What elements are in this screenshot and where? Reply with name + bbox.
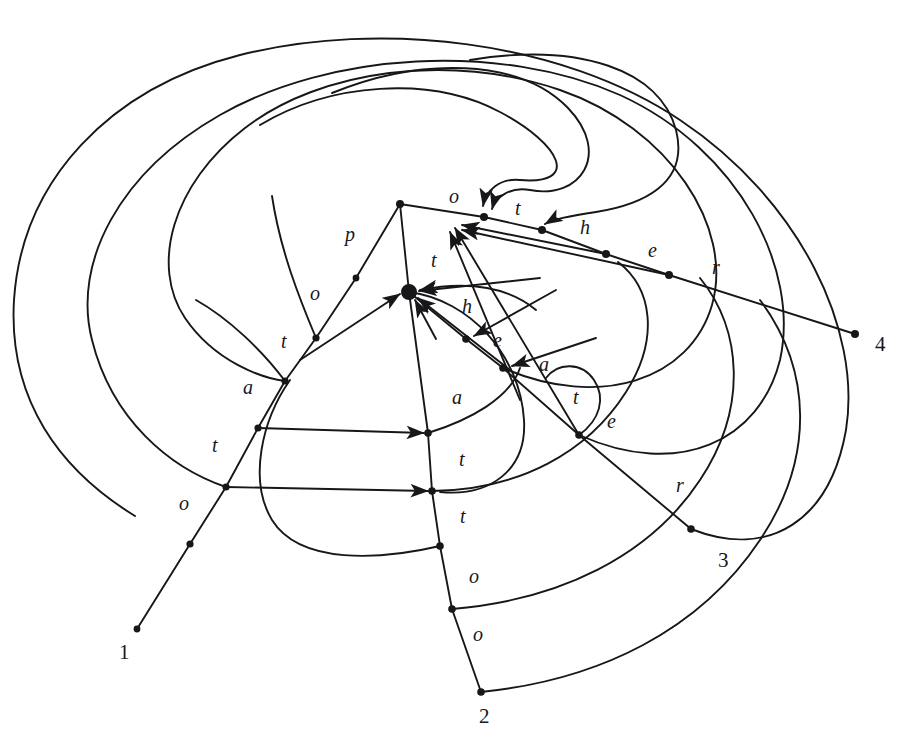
edge-label-o-col-1: o [469, 565, 479, 587]
edge-p-to-po [316, 278, 356, 338]
suffix-link-curve-third [169, 70, 717, 387]
node-atto-col [448, 605, 456, 613]
edge-label-r-top: r [712, 256, 720, 278]
edge-label-a-col: a [452, 386, 462, 408]
figure-container: p o t a t o o t h e r t h e a t e r a t … [0, 0, 903, 738]
edge-curve-into-po [272, 196, 316, 338]
edge-label-p: p [343, 223, 355, 246]
node-oth-top [602, 250, 610, 258]
edge-label-h-top: h [580, 216, 590, 238]
leaf-node-2 [477, 688, 485, 696]
edge-arc-o-col-right [452, 278, 734, 609]
node-pota [254, 424, 261, 431]
edge-potato-to-leaf1 [137, 544, 190, 629]
edge-label-r-inner: r [676, 474, 684, 496]
edge-label-t-inner: t [573, 386, 579, 408]
suffix-link-potat-to-atcol [226, 487, 428, 491]
edge-pota-to-potat [226, 428, 258, 487]
leaf-label-3: 3 [718, 548, 729, 572]
node-ot-top [538, 226, 546, 234]
edge-apex-to-o-top [400, 204, 484, 217]
node-o-top [480, 213, 488, 221]
edge-labels: p o t a t o o t h e r t h e a t e r a t … [179, 185, 720, 645]
edge-label-o-top: o [449, 185, 459, 207]
leaf-label-1: 1 [119, 640, 130, 664]
left-spine-incoming-curves [196, 196, 316, 381]
edge-label-e-inner: e [607, 410, 616, 432]
leaf-labels: 1 2 3 4 [119, 332, 886, 728]
node-po [312, 334, 319, 341]
edge-label-t-col-2: t [460, 505, 466, 527]
edge-label-e-mid: e [493, 329, 502, 351]
leaf-node-4 [851, 330, 859, 338]
edge-label-a-mid: a [539, 353, 549, 375]
leaf-label-4: 4 [875, 332, 886, 356]
node-potato [186, 540, 193, 547]
node-p [353, 275, 360, 282]
edge-label-h-mid: h [462, 295, 472, 317]
leaf-node-3 [687, 525, 695, 533]
edge-apex-to-root [400, 204, 409, 292]
edge-curve-into-pot [196, 300, 285, 381]
edge-arc-acol-to-e [428, 368, 520, 433]
edge-h-to-e-top [606, 254, 669, 275]
node-potat [222, 483, 229, 490]
suffix-link-curve-second [88, 61, 784, 487]
edge-arc-att-col-left [260, 380, 440, 556]
leaf-label-2: 2 [479, 704, 490, 728]
internal-node-apex [396, 200, 404, 208]
node-att-col [436, 542, 444, 550]
node-h-mid [462, 335, 470, 343]
node-dots [134, 200, 859, 696]
edge-label-o-col-2: o [473, 623, 483, 645]
edge-label-o-left-2: o [179, 492, 189, 514]
edge-t-to-t-col [432, 491, 440, 546]
edge-label-o-left-1: o [310, 282, 320, 304]
suffix-link-top-to-root-a [419, 278, 540, 291]
edge-label-t-col-1: t [459, 448, 465, 470]
node-othe-top [665, 271, 673, 279]
suffix-tree-diagram: p o t a t o o t h e r t h e a t e r a t … [0, 0, 903, 738]
edge-potat-to-potato [190, 487, 226, 544]
edge-t-to-o-col [440, 546, 452, 609]
edge-label-t-left-1: t [281, 330, 287, 352]
suffix-link-right-to-hemid [512, 338, 596, 366]
edge-apex-to-p [356, 204, 400, 278]
node-at-col [428, 487, 436, 495]
edge-label-a-left: a [243, 376, 253, 398]
node-hea-mid [575, 431, 583, 439]
horizontal-suffix-links [226, 428, 428, 491]
edge-e-to-leaf4 [669, 275, 855, 334]
node-pot [281, 377, 288, 384]
edge-arc-leaf2-right [481, 300, 800, 692]
suffix-link-othetop-to-apex-b [462, 230, 669, 275]
node-a-col [424, 429, 432, 437]
branch-left-spine [137, 204, 400, 629]
suffix-link-heamid-to-apex [455, 228, 579, 435]
edge-o-to-t-top [484, 217, 542, 230]
suffix-link-pota-to-acol [258, 428, 424, 433]
column-outgoing-curves [260, 262, 800, 692]
edge-a-to-t-col [428, 433, 432, 491]
edge-o-to-o-col [452, 609, 481, 692]
edge-a-to-leaf3 [579, 435, 691, 529]
edge-label-t-left-2: t [212, 434, 218, 456]
edge-label-t-root: t [431, 249, 437, 271]
node-he-mid [499, 364, 507, 372]
edge-label-t-top: t [515, 197, 521, 219]
edge-root-to-a-col [409, 292, 428, 433]
leaf-node-1 [134, 626, 141, 633]
suffix-link-curve-fourth [260, 88, 557, 206]
edge-pot-to-pota [258, 381, 285, 428]
root-node [402, 285, 416, 299]
edge-label-e-top: e [648, 239, 657, 261]
